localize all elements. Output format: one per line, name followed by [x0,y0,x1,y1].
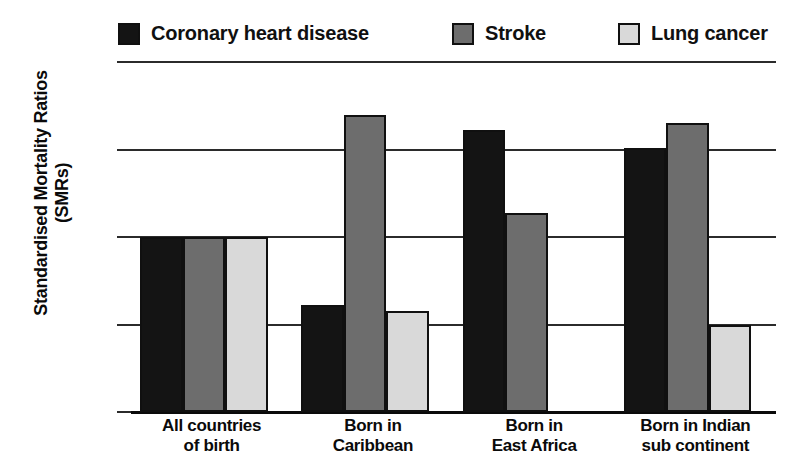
y-axis-title: Standardised Mortality Ratios (SMRs) [31,13,73,373]
bar [225,237,268,412]
plot-area: 050100150200 [131,62,776,412]
bar [140,237,183,412]
bar [666,123,709,412]
chart-legend: Coronary heart disease Stroke Lung cance… [0,0,798,62]
legend-swatch-coronary-heart-disease [118,23,140,45]
y-tick-mark-200 [117,61,131,63]
x-axis-label-line-2: Caribbean [292,436,453,456]
legend-swatch-lung-cancer [618,23,640,45]
x-axis-label: Born inCaribbean [292,416,453,456]
x-axis-label-line-2: sub continent [615,436,776,456]
x-axis-label: Born inEast Africa [454,416,615,456]
x-axis-label-line-2: East Africa [454,436,615,456]
x-axis-label-line-1: Born in [292,416,453,436]
legend-label-coronary-heart-disease: Coronary heart disease [151,22,369,45]
legend-item-lung-cancer[interactable]: Lung cancer [618,22,768,45]
y-tick-mark-100 [117,236,131,238]
y-tick-mark-0 [117,411,131,413]
bar [344,115,387,413]
y-axis-title-line-2: (SMRs) [52,13,73,373]
bar [505,213,548,413]
legend-swatch-stroke [452,23,474,45]
x-axis-label: All countriesof birth [131,416,292,456]
bar [463,130,506,412]
bar [624,148,667,412]
bar [386,311,429,413]
bar [301,305,344,412]
x-axis-label-line-1: Born in [454,416,615,436]
legend-item-coronary-heart-disease[interactable]: Coronary heart disease [118,22,369,45]
legend-label-stroke: Stroke [485,22,546,45]
bar [709,325,752,413]
bars [131,62,776,412]
legend-item-stroke[interactable]: Stroke [452,22,546,45]
x-axis-label-line-1: Born in Indian [615,416,776,436]
x-axis-category-labels: All countriesof birthBorn inCaribbeanBor… [131,416,776,466]
bar [183,237,226,412]
legend-label-lung-cancer: Lung cancer [651,22,768,45]
y-tick-mark-50 [117,324,131,326]
x-axis-label-line-1: All countries [131,416,292,436]
y-axis-title-line-1: Standardised Mortality Ratios [31,13,52,373]
x-axis-label-line-2: of birth [131,436,292,456]
y-tick-mark-150 [117,149,131,151]
x-axis-label: Born in Indiansub continent [615,416,776,456]
